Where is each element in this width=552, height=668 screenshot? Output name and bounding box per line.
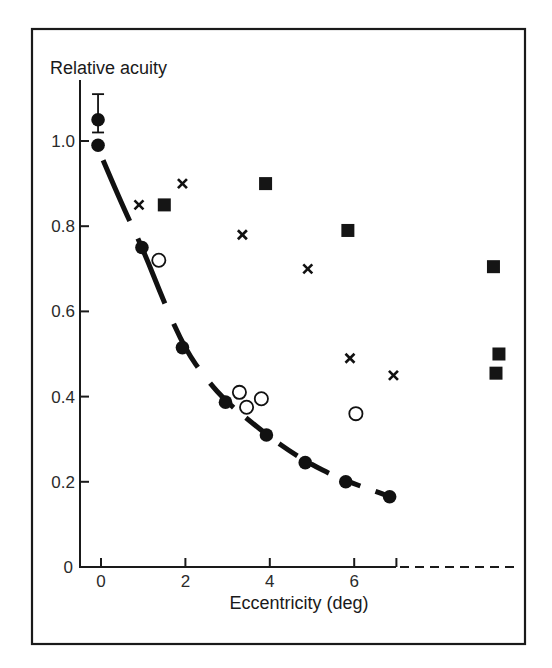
open-circle-marker [349,407,362,420]
filled-circle-marker [298,456,312,470]
y-tick-label: 0.8 [51,217,75,236]
fit-curve [103,160,390,497]
figure-frame [32,29,525,644]
x-tick-label: 2 [181,572,190,591]
open-circle-marker [240,401,253,414]
cross-marker [178,179,187,188]
y-axis-title: Relative acuity [50,58,167,78]
cross-marker [345,354,354,363]
filled-circle-marker [339,475,353,489]
filled-circle-marker [176,341,190,355]
filled-circle-marker [383,490,397,504]
filled-circle-marker [91,138,105,152]
fit-curve-path [103,160,390,497]
open-circle-marker [233,386,246,399]
y-tick-label: 0 [64,558,73,577]
open-circle-marker [152,254,165,267]
filled-square-marker [259,177,272,190]
y-tick-label: 0.4 [51,388,75,407]
y-tick-label: 1.0 [51,132,75,151]
cross-marker [134,200,143,209]
y-tick-label: 0.6 [51,302,75,321]
filled-circle-marker [260,428,274,442]
filled-square-marker [341,224,354,237]
y-tick-label: 0.2 [51,473,75,492]
x-axis-title: Eccentricity (deg) [229,593,368,613]
filled-square-marker [489,367,502,380]
filled-circle-marker [91,113,105,127]
open-circle-marker [255,392,268,405]
x-tick-label: 0 [96,572,105,591]
cross-marker [238,230,247,239]
filled-circle-marker [219,395,233,409]
filled-square-marker [492,348,505,361]
acuity-chart: Relative acuity Eccentricity (deg) 02460… [0,0,552,668]
cross-marker [389,371,398,380]
data-points [91,94,505,503]
filled-circle-marker [135,241,149,255]
cross-marker [303,264,312,273]
axis-ticks: 024600.20.40.60.81.0 [51,132,396,591]
x-tick-label: 4 [265,572,274,591]
filled-square-marker [158,198,171,211]
x-tick-label: 6 [349,572,358,591]
filled-square-marker [487,260,500,273]
